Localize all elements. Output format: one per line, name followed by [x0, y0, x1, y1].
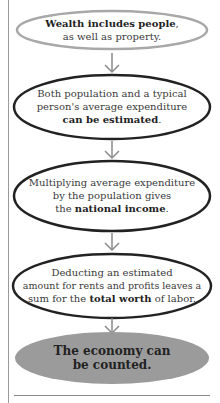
bottom-rule — [14, 395, 210, 396]
node-4-bold: total worth — [89, 293, 151, 304]
arrow-down-icon — [105, 318, 119, 333]
node-3-text: Multiplying average expenditure by the p… — [14, 176, 210, 215]
node-2-bold: can be estimated — [63, 114, 159, 125]
arrow-down-icon — [105, 141, 119, 158]
arrow-down-icon — [105, 233, 119, 250]
node-4-text: Deducting an estimated amount for rents … — [14, 266, 210, 305]
node-1-text: Wealth includes people, as well as prope… — [14, 17, 210, 43]
node-2-text: Both population and a typical person's a… — [14, 87, 210, 126]
node-3-bold: national income — [75, 203, 166, 214]
node-5-text: The economy can be counted. — [14, 344, 210, 372]
arrow-down-icon — [105, 53, 119, 72]
node-1-bold: Wealth includes people — [45, 18, 175, 29]
